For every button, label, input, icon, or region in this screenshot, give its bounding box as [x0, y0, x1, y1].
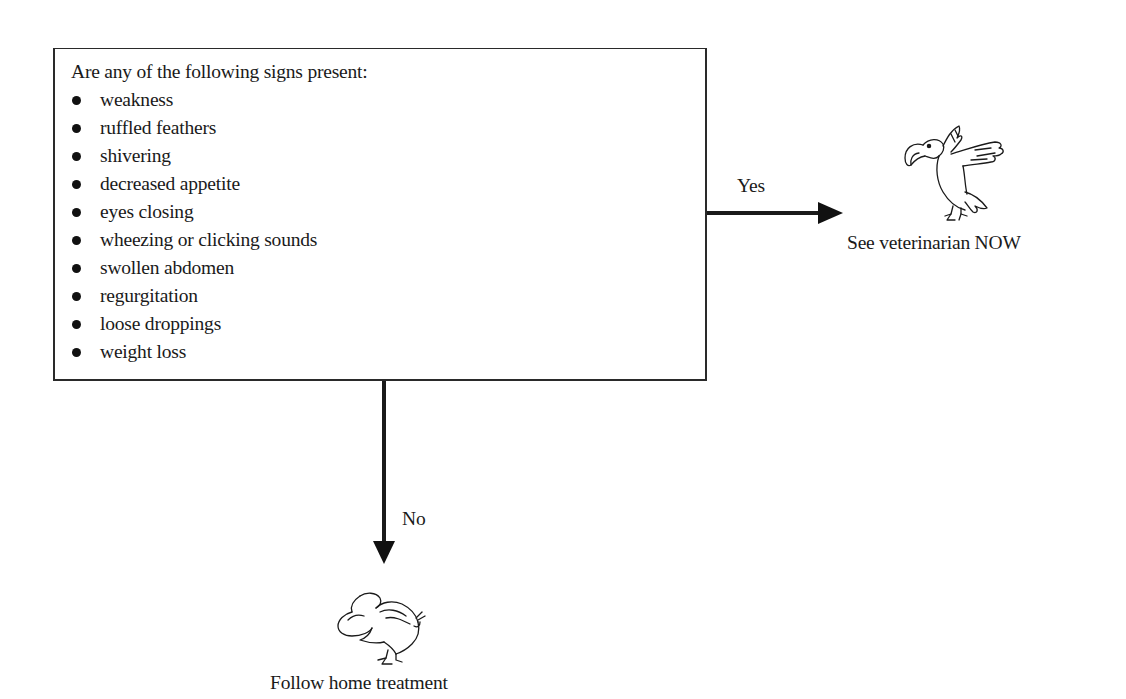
no-outcome-label: Follow home treatment	[270, 671, 448, 695]
sign-label: swollen abdomen	[100, 257, 234, 278]
list-item: eyes closing	[71, 200, 317, 228]
sign-label: shivering	[100, 145, 171, 166]
yes-arrow	[706, 202, 843, 224]
list-item: weight loss	[71, 340, 317, 368]
bullet-icon	[72, 348, 81, 357]
yes-branch-label: Yes	[737, 174, 765, 198]
sick-parrot-icon	[330, 590, 440, 670]
no-branch-label: No	[402, 507, 425, 531]
bullet-icon	[72, 180, 81, 189]
list-item: shivering	[71, 144, 317, 172]
yes-outcome-label: See veterinarian NOW	[847, 231, 1021, 255]
flying-parrot-icon	[895, 120, 1015, 230]
bullet-icon	[72, 96, 81, 105]
list-item: regurgitation	[71, 284, 317, 312]
bullet-icon	[72, 152, 81, 161]
list-item: loose droppings	[71, 312, 317, 340]
bullet-icon	[72, 124, 81, 133]
sign-label: loose droppings	[100, 313, 221, 334]
bullet-icon	[72, 208, 81, 217]
list-item: swollen abdomen	[71, 256, 317, 284]
sign-label: ruffled feathers	[100, 117, 216, 138]
sign-label: weight loss	[100, 341, 186, 362]
sign-label: decreased appetite	[100, 173, 240, 194]
bullet-icon	[72, 292, 81, 301]
sign-label: eyes closing	[100, 201, 193, 222]
list-item: wheezing or clicking sounds	[71, 228, 317, 256]
list-item: weakness	[71, 88, 317, 116]
decision-question: Are any of the following signs present:	[71, 60, 368, 84]
bullet-icon	[72, 264, 81, 273]
bullet-icon	[72, 236, 81, 245]
signs-list: weakness ruffled feathers shivering decr…	[71, 88, 317, 368]
sign-label: regurgitation	[100, 285, 198, 306]
bullet-icon	[72, 320, 81, 329]
list-item: decreased appetite	[71, 172, 317, 200]
list-item: ruffled feathers	[71, 116, 317, 144]
no-arrow	[373, 380, 395, 564]
sign-label: weakness	[100, 89, 173, 110]
decision-box: Are any of the following signs present: …	[53, 48, 707, 381]
sign-label: wheezing or clicking sounds	[100, 229, 317, 250]
